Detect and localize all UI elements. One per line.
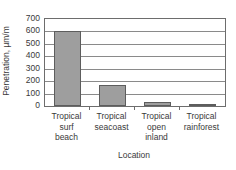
x-axis-tick <box>134 106 135 110</box>
bar <box>189 104 216 106</box>
bar <box>144 102 171 106</box>
y-axis-tick-label: 400 <box>18 50 40 60</box>
bar-chart: Penetration, µm/m 7006005004003002001000… <box>0 0 236 170</box>
y-axis-tick-label: 200 <box>18 75 40 85</box>
x-axis-category-line: Tropical <box>176 111 228 122</box>
x-axis-category-line: beach <box>41 132 93 143</box>
y-axis-tick-label: 300 <box>18 63 40 73</box>
bar <box>99 85 126 106</box>
y-axis-tick-label: 700 <box>18 13 40 23</box>
bar <box>54 31 81 106</box>
y-axis-tick-label: 500 <box>18 38 40 48</box>
y-axis-tick-label: 600 <box>18 25 40 35</box>
x-axis-tick <box>89 106 90 110</box>
y-axis-tick-label: 0 <box>18 100 40 110</box>
plot-area <box>44 18 226 107</box>
x-axis-category-line: inland <box>131 132 183 143</box>
x-axis-category-line: rainforest <box>176 122 228 133</box>
y-axis-title: Penetration, µm/m <box>0 0 12 122</box>
y-axis-tick-label: 100 <box>18 88 40 98</box>
x-axis-category-label: Tropicalrainforest <box>176 111 228 132</box>
x-axis-title: Location <box>44 150 224 161</box>
y-axis-tick-labels: 7006005004003002001000 <box>14 0 40 170</box>
x-axis-tick <box>179 106 180 110</box>
